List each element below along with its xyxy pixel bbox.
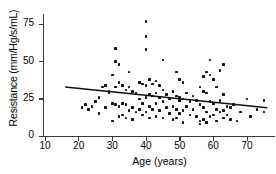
trend-line — [0, 0, 276, 174]
scatter-plot-figure: Resistance (mm/Hg/s/mL) Age (years) 0255… — [0, 0, 276, 174]
